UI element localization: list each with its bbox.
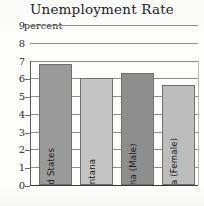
y-tick-mark-2: [25, 150, 30, 151]
bar-series: United States Montana Montana (Male) Mon…: [31, 25, 198, 185]
y-tick-mark-5: [25, 97, 30, 98]
y-tick-mark-0: [25, 186, 30, 187]
bar-montana-female: Montana (Female): [162, 85, 195, 185]
y-tick-label-3: 3: [19, 128, 25, 138]
gridline-0-baseline: 0: [30, 185, 198, 186]
y-tick-mark-1: [25, 168, 30, 169]
y-tick-mark-6: [25, 79, 30, 80]
y-tick-label-5: 5: [19, 92, 25, 102]
y-tick-label-8: 8: [19, 39, 25, 49]
bar-label-united-states: United States: [46, 148, 56, 185]
y-tick-label-0: 0: [19, 181, 25, 191]
y-tick-label-7: 7: [19, 57, 25, 67]
y-tick-label-2: 2: [19, 145, 25, 155]
bar-label-montana-male: Montana (Male): [128, 143, 138, 185]
bar-montana-male: Montana (Male): [121, 73, 154, 185]
y-tick-label-6: 6: [19, 74, 25, 84]
plot-area: 9 8 7 6 5 4 3 2 1: [30, 25, 198, 185]
y-tick-mark-4: [25, 115, 30, 116]
bar-label-montana: Montana: [87, 159, 97, 185]
y-tick-label-9: 9: [19, 21, 25, 31]
bar-label-montana-female: Montana (Female): [169, 138, 179, 185]
bar-montana: Montana: [80, 78, 113, 185]
y-tick-mark-3: [25, 133, 30, 134]
y-tick-label-1: 1: [19, 163, 25, 173]
y-tick-label-4: 4: [19, 110, 25, 120]
bar-united-states: United States: [39, 64, 72, 185]
chart-title: Unemployment Rate: [0, 1, 204, 17]
unemployment-rate-chart: Unemployment Rate percent 9 8 7 6 5 4 3: [0, 0, 204, 206]
